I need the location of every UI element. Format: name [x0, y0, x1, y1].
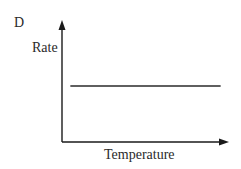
- plot-area: [0, 0, 241, 169]
- y-axis: [59, 20, 66, 142]
- x-axis: [62, 139, 229, 146]
- chart-root: D Rate Temperature: [0, 0, 241, 169]
- x-axis-arrow-icon: [219, 139, 229, 146]
- y-axis-arrow-icon: [59, 20, 66, 30]
